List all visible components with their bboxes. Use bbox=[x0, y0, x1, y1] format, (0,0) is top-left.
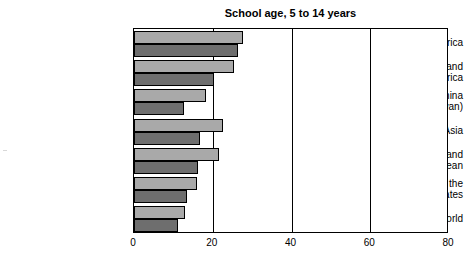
bar-dark-3 bbox=[134, 132, 200, 145]
bar-dark-0 bbox=[134, 44, 238, 57]
x-tick-0: 0 bbox=[130, 237, 136, 248]
gridline-40 bbox=[292, 29, 293, 232]
edge-artifact bbox=[3, 150, 7, 151]
plot-area bbox=[133, 28, 448, 233]
bar-dark-1 bbox=[134, 73, 214, 86]
bar-dark-4 bbox=[134, 161, 198, 174]
bar-light-2 bbox=[134, 89, 206, 102]
bar-light-3 bbox=[134, 119, 223, 132]
bar-dark-5 bbox=[134, 190, 187, 203]
bar-light-5 bbox=[134, 177, 197, 190]
x-tick-20: 20 bbox=[206, 237, 217, 248]
bar-chart: School age, 5 to 14 years Sub-Saharan Af… bbox=[0, 0, 467, 270]
bar-dark-6 bbox=[134, 219, 178, 232]
bar-light-1 bbox=[134, 60, 234, 73]
chart-title: School age, 5 to 14 years bbox=[133, 7, 448, 19]
x-tick-60: 60 bbox=[364, 237, 375, 248]
bar-dark-2 bbox=[134, 102, 184, 115]
bar-light-6 bbox=[134, 206, 185, 219]
x-tick-80: 80 bbox=[442, 237, 453, 248]
gridline-60 bbox=[370, 29, 371, 232]
x-tick-40: 40 bbox=[285, 237, 296, 248]
bar-light-0 bbox=[134, 31, 243, 44]
bar-light-4 bbox=[134, 148, 219, 161]
